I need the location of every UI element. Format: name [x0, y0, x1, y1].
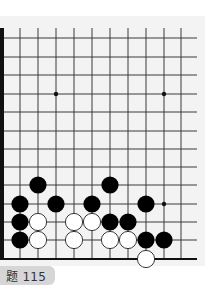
- black-stone[interactable]: [11, 195, 28, 212]
- white-stone[interactable]: [29, 213, 46, 230]
- white-stone[interactable]: [101, 231, 118, 248]
- black-stone[interactable]: [29, 176, 46, 193]
- black-stone[interactable]: [137, 231, 154, 248]
- star-point: [162, 202, 166, 206]
- black-stone[interactable]: [11, 213, 28, 230]
- black-stone[interactable]: [83, 195, 100, 212]
- star-point: [54, 92, 58, 96]
- black-stone[interactable]: [155, 231, 172, 248]
- problem-number-label: 题 115: [6, 267, 46, 284]
- go-board[interactable]: [0, 0, 215, 291]
- black-stone[interactable]: [101, 176, 118, 193]
- black-stone[interactable]: [119, 213, 136, 230]
- black-stone[interactable]: [47, 195, 64, 212]
- problem-number-badge: 题 115: [0, 266, 55, 285]
- white-stone[interactable]: [65, 213, 82, 230]
- white-stone[interactable]: [119, 231, 136, 248]
- white-stone[interactable]: [83, 213, 100, 230]
- black-stone[interactable]: [101, 213, 118, 230]
- white-stone[interactable]: [29, 231, 46, 248]
- black-stone[interactable]: [137, 195, 154, 212]
- white-stone[interactable]: [65, 231, 82, 248]
- black-stone[interactable]: [11, 231, 28, 248]
- white-stone[interactable]: [137, 250, 154, 267]
- star-point: [162, 92, 166, 96]
